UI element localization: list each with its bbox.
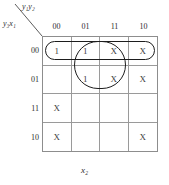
kmap-cell[interactable]: 1 — [72, 37, 101, 66]
karnaugh-map: y₁y₂ y₃x₁ x₂ 00 01 11 10 00 01 11 10 1 1… — [0, 0, 169, 185]
kmap-cell[interactable]: 1 — [43, 37, 72, 66]
row-header: 10 — [22, 123, 41, 152]
kmap-cell[interactable]: 1 — [72, 66, 101, 95]
column-header: 00 — [42, 20, 71, 33]
bottom-variable-label: x₂ — [0, 166, 169, 175]
row-header: 01 — [22, 65, 41, 94]
column-headers: 00 01 11 10 — [42, 20, 158, 33]
row-headers: 00 01 11 10 — [22, 36, 41, 152]
kmap-cell[interactable]: X — [100, 37, 129, 66]
kmap-cell[interactable]: X — [43, 123, 72, 152]
kmap-cell[interactable]: X — [100, 66, 129, 95]
column-header: 01 — [71, 20, 100, 33]
kmap-cell[interactable]: X — [129, 37, 158, 66]
kmap-cell[interactable]: X — [129, 66, 158, 95]
top-variables-label: y₁y₂ — [22, 3, 35, 11]
left-variables-label: y₃x₁ — [3, 20, 16, 28]
kmap-cell[interactable] — [72, 94, 101, 123]
column-header: 11 — [100, 20, 129, 33]
column-header: 10 — [129, 20, 158, 33]
kmap-cell[interactable] — [129, 94, 158, 123]
kmap-cell[interactable]: X — [129, 123, 158, 152]
kmap-grid: 1 1 X X 1 X X X X X — [42, 36, 158, 152]
row-header: 00 — [22, 36, 41, 65]
kmap-cell[interactable] — [72, 123, 101, 152]
kmap-cell[interactable] — [100, 123, 129, 152]
kmap-cell[interactable] — [43, 66, 72, 95]
kmap-cell[interactable] — [100, 94, 129, 123]
row-header: 11 — [22, 94, 41, 123]
kmap-cell[interactable]: X — [43, 94, 72, 123]
